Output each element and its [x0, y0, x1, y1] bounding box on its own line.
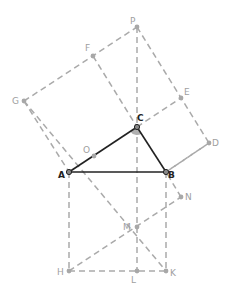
point-K — [164, 269, 169, 274]
dashed-segment-PD — [137, 27, 209, 143]
dashed-segment-GA — [24, 101, 69, 172]
point-H — [67, 269, 72, 274]
point-L — [135, 269, 140, 274]
label-M: M — [123, 222, 131, 232]
label-N: N — [185, 192, 192, 202]
label-P: P — [130, 16, 136, 26]
geometry-diagram: P F G E C D A B O N M H L K — [0, 0, 234, 300]
dashed-segment-HN — [69, 197, 181, 271]
side-BC — [137, 127, 166, 172]
point-N — [179, 195, 184, 200]
point-F — [91, 54, 96, 59]
point-G — [22, 99, 27, 104]
label-G: G — [12, 96, 19, 106]
dashed-construction-lines — [24, 27, 209, 271]
point-D — [207, 141, 212, 146]
label-K: K — [170, 268, 177, 278]
label-L: L — [131, 275, 136, 285]
side-CA — [69, 127, 137, 172]
point-M — [135, 225, 140, 230]
label-B: B — [168, 170, 175, 180]
label-H: H — [57, 267, 64, 277]
point-O — [92, 154, 97, 159]
point-C — [134, 124, 139, 129]
label-F: F — [85, 43, 90, 53]
point-labels: P F G E C D A B O N M H L K — [12, 16, 219, 285]
dashed-segment-FC — [93, 56, 137, 127]
label-O: O — [83, 145, 90, 155]
label-D: D — [212, 138, 219, 148]
label-C: C — [137, 113, 144, 123]
point-E — [179, 96, 184, 101]
point-A — [66, 169, 71, 174]
points — [22, 25, 212, 274]
label-A: A — [58, 170, 65, 180]
label-E: E — [184, 87, 190, 97]
dashed-segment-GK — [24, 101, 166, 271]
dashed-segment-GP — [24, 27, 137, 101]
